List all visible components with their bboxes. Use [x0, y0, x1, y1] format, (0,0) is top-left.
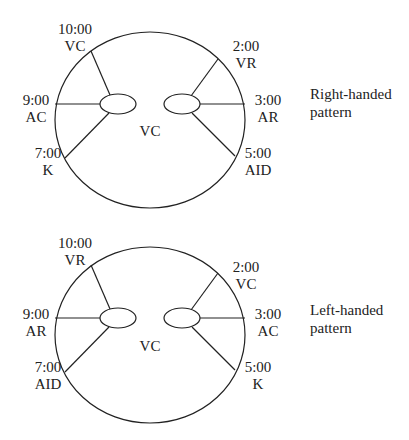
left-eye-ellipse	[100, 308, 136, 328]
clock-time: 10:00	[55, 21, 95, 38]
label-9-oclock: 9:00 AR	[18, 306, 54, 340]
position-code: VR	[228, 55, 264, 72]
line-2	[191, 59, 218, 96]
clock-time: 2:00	[228, 38, 264, 55]
label-5-oclock: 5:00 K	[240, 359, 276, 393]
caption-left-handed: Left-handed pattern	[310, 301, 383, 337]
label-3-oclock: 3:00 AR	[250, 92, 286, 126]
label-10-oclock: 10:00 VR	[55, 235, 95, 269]
clock-time: 5:00	[240, 145, 276, 162]
position-code: AC	[250, 323, 286, 340]
position-code: AR	[18, 323, 54, 340]
position-code: VC	[228, 276, 264, 293]
clock-time: 3:00	[250, 306, 286, 323]
position-code: AC	[18, 109, 54, 126]
line-2	[191, 273, 218, 310]
clock-time: 7:00	[28, 359, 68, 376]
label-7-oclock: 7:00 AID	[28, 359, 68, 393]
clock-time: 5:00	[240, 359, 276, 376]
position-code: AR	[250, 109, 286, 126]
line-10	[91, 265, 110, 309]
position-code: VC	[55, 38, 95, 55]
line-5	[192, 327, 235, 370]
position-code: AID	[28, 376, 68, 393]
caption-right-handed: Right-handed pattern	[310, 85, 392, 121]
clock-time: 3:00	[250, 92, 286, 109]
right-eye-ellipse	[164, 94, 200, 114]
position-code: AID	[240, 162, 276, 179]
label-9-oclock: 9:00 AC	[18, 92, 54, 126]
line-7	[65, 113, 109, 158]
outer-circle-right-handed	[55, 32, 245, 208]
center-label: VC	[133, 338, 167, 355]
right-eye-ellipse	[164, 308, 200, 328]
clock-time: 9:00	[18, 306, 54, 323]
line-7	[65, 327, 109, 372]
position-code: K	[30, 162, 66, 179]
label-2-oclock: 2:00 VR	[228, 38, 264, 72]
center-label: VC	[133, 123, 167, 140]
label-2-oclock: 2:00 VC	[228, 259, 264, 293]
label-5-oclock: 5:00 AID	[240, 145, 276, 179]
clock-time: 2:00	[228, 259, 264, 276]
position-code: K	[240, 376, 276, 393]
label-3-oclock: 3:00 AC	[250, 306, 286, 340]
clock-time: 7:00	[30, 145, 66, 162]
label-7-oclock: 7:00 K	[30, 145, 66, 179]
line-5	[192, 113, 235, 156]
label-10-oclock: 10:00 VC	[55, 21, 95, 55]
clock-time: 10:00	[55, 235, 95, 252]
left-eye-ellipse	[100, 94, 136, 114]
line-10	[91, 51, 110, 95]
position-code: VR	[55, 252, 95, 269]
clock-time: 9:00	[18, 92, 54, 109]
outer-circle-left-handed	[55, 247, 245, 423]
